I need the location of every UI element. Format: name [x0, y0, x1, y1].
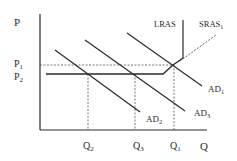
- q2-label: Q2: [83, 140, 94, 153]
- ad1-label: AD1: [208, 84, 224, 95]
- ad3-label: AD3: [194, 108, 210, 119]
- sras1-dashed-line: [180, 35, 216, 61]
- ad2-line: [55, 50, 140, 112]
- q1-label: Q1: [170, 140, 181, 153]
- ad2-label: AD2: [146, 114, 162, 125]
- y-axis-label: P: [14, 16, 20, 28]
- diagram-svg: P Q P1 P2 Q2 Q3 Q1 LRAS SRAS1 AD1 AD3 AD…: [0, 0, 237, 161]
- sras1-label: SRAS1: [199, 19, 223, 30]
- q3-label: Q3: [133, 140, 144, 153]
- p2-label: P2: [14, 71, 24, 84]
- x-axis-label: Q: [200, 140, 208, 152]
- lras-label: LRAS: [154, 19, 176, 29]
- p1-label: P1: [14, 58, 24, 71]
- ad-as-diagram: P Q P1 P2 Q2 Q3 Q1 LRAS SRAS1 AD1 AD3 AD…: [0, 0, 237, 161]
